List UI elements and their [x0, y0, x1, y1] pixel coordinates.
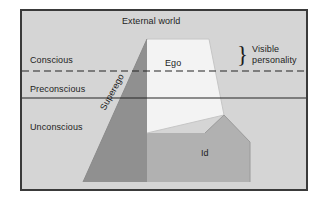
visible-personality-annotation: } Visible personality: [237, 44, 308, 65]
ego-region: [147, 39, 224, 133]
label-visible-personality: Visible personality: [252, 44, 308, 65]
psyche-diagram-figure: External world Conscious Preconscious Un…: [0, 0, 323, 200]
label-conscious: Conscious: [30, 55, 73, 66]
label-ego: Ego: [165, 58, 181, 69]
diagram-canvas: [22, 11, 306, 189]
label-preconscious: Preconscious: [30, 84, 85, 95]
curly-brace-icon: }: [237, 45, 248, 65]
label-external-world: External world: [122, 16, 180, 27]
diagram-frame: External world Conscious Preconscious Un…: [20, 9, 308, 191]
label-id: Id: [201, 148, 209, 159]
label-unconscious: Unconscious: [30, 122, 83, 133]
